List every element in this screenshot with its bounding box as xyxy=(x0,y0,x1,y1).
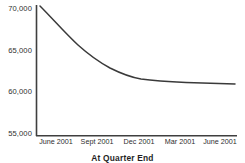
x-tick-label-3: Dec 2001 xyxy=(124,137,155,146)
x-axis-title: At Quarter End xyxy=(0,153,245,163)
y-tick-label-70000: 70,000 xyxy=(0,4,32,13)
y-tick-label-60000: 60,000 xyxy=(0,87,32,96)
y-tick-label-55000: 55,000 xyxy=(0,129,32,138)
line-chart-figure: 70,000 65,000 60,000 55,000 June 2001 Se… xyxy=(0,0,245,163)
x-tick-label-1: June 2001 xyxy=(39,137,73,146)
x-tick-label-5: June 2001 xyxy=(203,137,237,146)
x-tick-label-2: Sept 2001 xyxy=(81,137,114,146)
y-tick-label-65000: 65,000 xyxy=(0,46,32,55)
data-series-line xyxy=(40,6,235,84)
x-tick-label-4: Mar 2001 xyxy=(165,137,195,146)
